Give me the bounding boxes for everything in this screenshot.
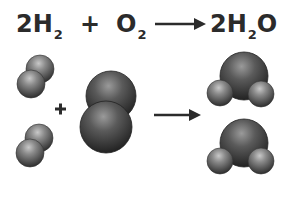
h2-molecule	[17, 55, 54, 98]
reaction-arrow-icon	[154, 109, 201, 121]
equation-arrow-icon	[155, 18, 206, 30]
plus-icon	[55, 104, 66, 115]
h2o-molecule	[207, 52, 274, 107]
h2-molecule	[16, 124, 53, 167]
h2o-molecule	[207, 119, 274, 174]
o2-molecule	[80, 71, 136, 153]
reaction-diagram	[0, 0, 296, 199]
